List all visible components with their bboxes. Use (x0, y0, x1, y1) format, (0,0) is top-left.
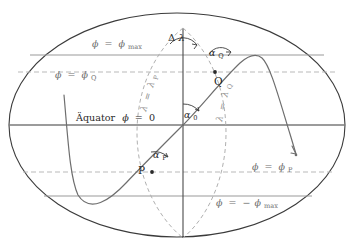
label-phi-q-phi2: ϕ (82, 69, 89, 80)
label-phi-neg-eq: = (229, 197, 237, 208)
label-lambda-q: λ = λ Q (214, 82, 234, 124)
label-lambda-p: λ = λ P (138, 73, 161, 114)
label-phi-max-sub: max (128, 43, 142, 51)
label-phi-q-phi: ϕ (55, 69, 62, 80)
label-phi-p-phi2: ϕ (279, 161, 286, 172)
label-equator-zero: 0 (149, 112, 155, 123)
label-phi-max-phi: ϕ (92, 38, 99, 49)
great-circle-curve (64, 56, 296, 205)
label-alpha-p: α P (153, 149, 167, 162)
label-phi-neg-minus: − (243, 197, 251, 208)
label-phi-max-eq: = (105, 38, 113, 49)
label-phi-q-eq: = (68, 69, 76, 80)
label-alpha-0-a: α (184, 109, 191, 120)
label-equator: Äquator ϕ = 0 (75, 112, 155, 123)
label-phi-p-sub: P (288, 166, 293, 174)
diagram-canvas: ϕ = ϕ max ϕ = ϕ Q Äquator ϕ = 0 ϕ = ϕ P (0, 0, 355, 250)
label-phi-neg-phi2: ϕ (255, 197, 262, 208)
label-lambda-q-l: λ (214, 115, 225, 124)
label-alpha-p-a: α (153, 149, 160, 160)
label-phi-neg-phi: ϕ (216, 197, 223, 208)
delta-lambda-arc-tip (192, 44, 197, 49)
label-lambda-q-eq: = (217, 102, 228, 111)
label-phi-neg-max: ϕ = − ϕ max (216, 197, 278, 210)
great-circle-end-dot (295, 154, 298, 157)
label-lambda-p-sub: P (152, 74, 161, 81)
label-phi-q-sub: Q (91, 74, 97, 82)
label-phi-p-phi: ϕ (252, 161, 259, 172)
label-equator-eq: = (135, 112, 143, 123)
label-phi-q: ϕ = ϕ Q (55, 69, 97, 82)
label-lambda-q-l2: λ (219, 90, 230, 99)
label-alpha-0-sub: 0 (193, 114, 197, 122)
geodesy-diagram: ϕ = ϕ max ϕ = ϕ Q Äquator ϕ = 0 ϕ = ϕ P (0, 0, 355, 250)
label-equator-word: Äquator (75, 112, 116, 123)
label-phi-neg-sub: max (264, 202, 278, 210)
label-delta-lambda: Δ λ (168, 32, 185, 43)
label-equator-phi: ϕ (122, 112, 129, 123)
label-phi-p-eq: = (265, 161, 273, 172)
label-alpha-q-a: α (209, 47, 216, 58)
point-marker-q (213, 70, 217, 74)
label-delta-lambda-l: λ (177, 32, 184, 43)
label-delta: Δ (168, 32, 175, 43)
label-lambda-p-eq: = (142, 91, 154, 101)
label-alpha-q-sub: Q (218, 52, 224, 60)
label-point-q: Q (214, 75, 223, 87)
label-alpha-p-sub: P (162, 154, 167, 162)
label-lambda-p-l2: λ (145, 80, 156, 89)
point-marker-p (150, 170, 154, 174)
label-phi-max: ϕ = ϕ max (92, 38, 142, 51)
label-phi-max-phi2: ϕ (119, 38, 126, 49)
meridian-lambda-p (137, 28, 183, 238)
label-lambda-q-sub: Q (225, 83, 234, 90)
label-alpha-q: α Q (209, 47, 224, 60)
label-point-p: P (138, 164, 145, 176)
